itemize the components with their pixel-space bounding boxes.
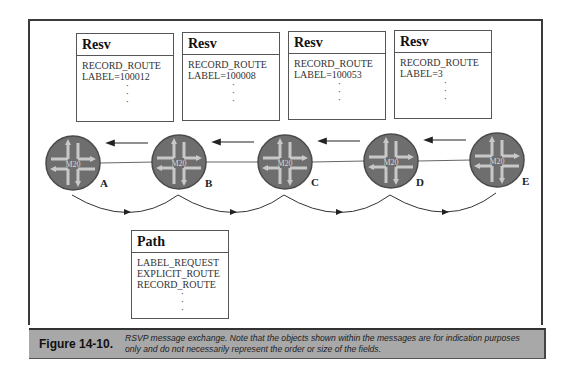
router-icon-a: [46, 136, 100, 190]
path-direction-curves: [72, 193, 496, 213]
router-label-b: B: [205, 177, 212, 189]
router-label-d: D: [416, 176, 424, 188]
path-arrowheads: [124, 209, 449, 215]
caption-text: RSVP message exchange. Note that the obj…: [125, 333, 535, 355]
router-label-a: A: [100, 177, 108, 189]
router-icon-d: [364, 134, 418, 188]
router-icon-c: [258, 135, 312, 189]
figure-caption: Figure 14-10. RSVP message exchange. Not…: [29, 328, 546, 359]
router-icon-b: [152, 135, 206, 189]
network-diagram: M20: [0, 0, 572, 368]
router-icon-e: [470, 133, 524, 187]
router-label-e: E: [522, 175, 529, 187]
router-label-c: C: [311, 176, 319, 188]
figure-number: Figure 14-10.: [39, 337, 113, 351]
